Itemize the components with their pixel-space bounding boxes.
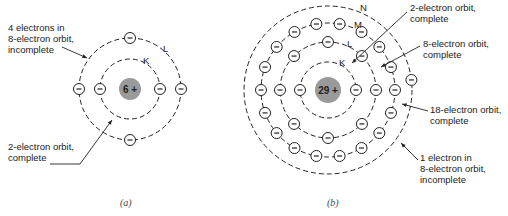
shell-label-k-a: K <box>143 55 150 66</box>
label-b-k: 2-electron orbit, complete <box>410 2 476 24</box>
caption-a: (a) <box>120 197 132 208</box>
shell-label-l-b: L <box>347 38 352 49</box>
label-a-inner: 2-electron orbit, complete <box>8 141 74 163</box>
shell-label-k-b: K <box>339 57 346 68</box>
shell-label-n-b: N <box>360 2 367 13</box>
label-b-n: 1 electron in 8-electron orbit, incomple… <box>420 152 486 185</box>
shell-label-m-b: M <box>354 19 362 30</box>
shell-label-l-a: L <box>163 43 168 54</box>
nucleus-a-label: 6 + <box>123 84 137 95</box>
label-a-outer: 4 electrons in 8-electron orbit, incompl… <box>8 22 74 55</box>
caption-b: (b) <box>327 197 339 208</box>
arrow-icon <box>108 120 112 125</box>
nucleus-b-label: 29 + <box>318 85 338 96</box>
label-b-m: 18-electron orbit, complete <box>430 104 501 126</box>
label-b-l: 8-electron orbit, complete <box>423 38 489 60</box>
